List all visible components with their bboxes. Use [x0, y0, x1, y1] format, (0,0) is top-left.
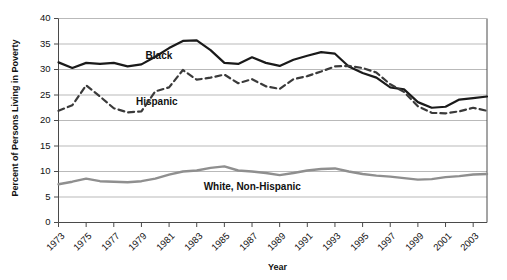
poverty-rate-line-chart: Percent of Persons Living in Poverty Yea…: [0, 0, 507, 280]
plot-area: [0, 0, 507, 280]
series-line: [59, 166, 488, 184]
series-line: [59, 66, 488, 113]
data-series: [59, 40, 488, 184]
series-line: [59, 40, 488, 107]
axis-tick-marks: [54, 19, 473, 228]
